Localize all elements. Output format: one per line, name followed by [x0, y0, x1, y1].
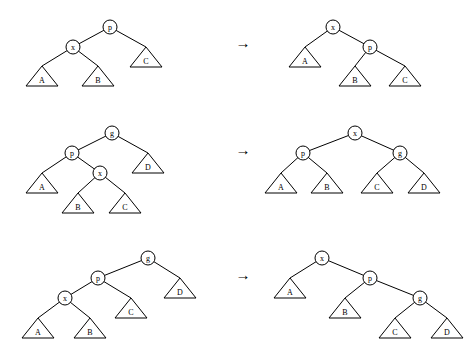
tree-edge	[377, 157, 395, 173]
subtree-a: A	[22, 318, 54, 338]
tree-edge	[405, 157, 424, 173]
nodes-layer: pxABCxpABCgpDAxBCxpgABCDgpDxCABxApBgCD	[22, 20, 463, 338]
subtree-label: B	[87, 328, 92, 337]
subtree-d: D	[408, 173, 440, 193]
subtree-label: C	[402, 76, 407, 85]
subtree-label: A	[302, 57, 308, 66]
node-label: x	[331, 23, 335, 32]
node-label: g	[418, 294, 422, 303]
tree-edge	[116, 30, 146, 47]
tree-edge	[78, 177, 95, 193]
node-x: x	[58, 291, 72, 305]
subtree-a: A	[265, 173, 297, 193]
subtree-c: C	[389, 66, 421, 86]
subtree-label: C	[122, 203, 127, 212]
transform-arrow-icon: →	[236, 142, 251, 158]
subtree-c: C	[109, 193, 141, 213]
node-label: p	[108, 23, 112, 32]
subtree-b: B	[82, 66, 114, 86]
transform-arrow-icon: →	[236, 35, 251, 51]
node-p: p	[296, 146, 310, 160]
node-label: x	[71, 43, 75, 52]
node-p: p	[91, 271, 105, 285]
node-x: x	[326, 20, 340, 34]
subtree-label: C	[374, 183, 379, 192]
subtree-label: D	[421, 183, 427, 192]
tree-edge	[425, 302, 447, 318]
tree-edge	[308, 157, 327, 173]
subtree-label: B	[352, 76, 357, 85]
subtree-d: D	[132, 153, 164, 173]
tree-edge	[395, 302, 415, 318]
node-label: x	[98, 169, 102, 178]
node-x: x	[315, 251, 329, 265]
node-label: p	[96, 274, 100, 283]
node-label: x	[320, 254, 324, 263]
tree-edge	[355, 52, 366, 66]
subtree-b: B	[339, 66, 371, 86]
node-p: p	[363, 271, 377, 285]
subtree-label: C	[143, 57, 148, 66]
node-p: p	[363, 40, 377, 54]
tree-edge	[42, 50, 67, 66]
tree-edge	[154, 261, 180, 278]
node-g: g	[141, 251, 155, 265]
subtree-d: D	[164, 278, 196, 298]
node-x: x	[348, 126, 362, 140]
node-g: g	[105, 126, 119, 140]
subtree-b: B	[74, 318, 106, 338]
node-label: p	[301, 149, 305, 158]
node-label: x	[63, 294, 67, 303]
subtree-label: B	[324, 183, 329, 192]
subtree-b: B	[311, 173, 343, 193]
subtree-a: A	[289, 47, 321, 67]
node-x: x	[93, 166, 107, 180]
node-label: p	[368, 274, 372, 283]
tree-edge	[70, 302, 90, 318]
node-label: g	[110, 129, 114, 138]
subtree-b: B	[329, 298, 361, 318]
subtree-c: C	[379, 318, 411, 338]
subtree-d: D	[431, 318, 463, 338]
node-g: g	[413, 291, 427, 305]
subtree-label: B	[342, 308, 347, 317]
subtree-c: C	[115, 298, 147, 318]
subtree-label: B	[95, 76, 100, 85]
diagram-canvas: pxABCxpABCgpDAxBCxpgABCDgpDxCABxApBgCD →…	[0, 0, 471, 353]
tree-edge	[104, 281, 131, 298]
tree-edge	[42, 157, 67, 173]
node-label: p	[368, 43, 372, 52]
subtree-label: D	[177, 288, 183, 297]
rotation-diagram-figure: pxABCxpABCgpDAxBCxpgABCDgpDxCABxApBgCD →…	[0, 0, 471, 353]
subtree-label: D	[145, 163, 151, 172]
subtree-label: A	[287, 288, 293, 297]
subtree-label: B	[75, 203, 80, 212]
subtree-label: A	[278, 183, 284, 192]
node-label: g	[398, 149, 402, 158]
tree-edge	[78, 51, 98, 66]
tree-edge	[118, 136, 148, 153]
node-p: p	[103, 20, 117, 34]
subtree-c: C	[361, 173, 393, 193]
transform-arrow-icon: →	[236, 267, 251, 283]
subtree-a: A	[26, 173, 58, 193]
tree-edge	[38, 302, 60, 318]
node-g: g	[393, 146, 407, 160]
tree-edge	[281, 157, 298, 173]
tree-edge	[305, 31, 328, 47]
tree-edge	[376, 50, 405, 66]
subtree-label: C	[392, 328, 397, 337]
subtree-b: B	[62, 193, 94, 213]
subtree-label: A	[35, 328, 41, 337]
node-label: p	[70, 149, 74, 158]
tree-edge	[105, 177, 125, 193]
subtree-label: D	[444, 328, 450, 337]
subtree-a: A	[274, 278, 306, 298]
subtree-a: A	[26, 66, 58, 86]
node-label: g	[146, 254, 150, 263]
tree-edge	[290, 261, 316, 278]
subtree-label: A	[39, 76, 45, 85]
subtree-c: C	[130, 47, 162, 67]
node-label: x	[353, 129, 357, 138]
subtree-label: A	[39, 183, 45, 192]
